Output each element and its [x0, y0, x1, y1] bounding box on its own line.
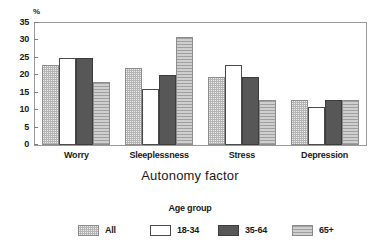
x-axis-tick-label: Stress: [229, 150, 255, 160]
legend-entry[interactable]: 35-64: [218, 222, 267, 238]
bar: [225, 65, 242, 145]
legend-entry[interactable]: 65+: [292, 222, 334, 238]
bar: [142, 89, 159, 145]
y-axis-tick-label: 20: [20, 69, 29, 79]
legend-label: 65+: [319, 225, 334, 235]
legend-label: 35-64: [245, 225, 267, 235]
bar: [59, 58, 76, 145]
y-axis-tick-label: 5: [24, 122, 29, 132]
legend-title: Age group: [0, 203, 380, 213]
x-axis-tick-labels: WorrySleeplessnessStressDepression: [35, 150, 366, 164]
bar: [93, 82, 110, 145]
y-axis-tick-label: 15: [20, 87, 29, 97]
x-axis-tick-label: Depression: [301, 150, 348, 160]
legend-entry[interactable]: All: [78, 222, 116, 238]
y-axis-tick-labels: 05101520253035: [0, 22, 32, 146]
bar: [291, 100, 308, 145]
legend-swatch-icon: [218, 225, 239, 236]
bar: [76, 58, 93, 145]
y-axis-tick-label: 0: [24, 139, 29, 149]
bar: [125, 68, 142, 145]
bar: [42, 65, 59, 145]
bar: [342, 100, 359, 145]
bar-chart: % 05101520253035 WorrySleeplessnessStres…: [0, 0, 380, 244]
legend: All18-3435-6465+: [0, 222, 380, 238]
x-axis-tick-label: Worry: [64, 150, 89, 160]
bar: [242, 77, 259, 145]
bar: [308, 107, 325, 145]
x-axis-title: Autonomy factor: [0, 168, 380, 183]
legend-swatch-icon: [292, 225, 313, 236]
legend-label: All: [105, 225, 116, 235]
legend-swatch-icon: [150, 225, 171, 236]
bar: [325, 100, 342, 145]
bar: [159, 75, 176, 145]
legend-swatch-icon: [78, 225, 99, 236]
y-axis-tick-label: 30: [20, 34, 29, 44]
y-axis-unit-label: %: [33, 7, 40, 16]
bar: [259, 100, 276, 145]
legend-entry[interactable]: 18-34: [150, 222, 199, 238]
y-axis-tick-label: 35: [20, 17, 29, 27]
legend-label: 18-34: [177, 225, 199, 235]
y-axis-tick-label: 25: [20, 52, 29, 62]
bars-container: [35, 23, 366, 145]
bar: [208, 77, 225, 145]
y-axis-tick-label: 10: [20, 104, 29, 114]
x-axis-tick-label: Sleeplessness: [129, 150, 188, 160]
bar: [176, 37, 193, 145]
